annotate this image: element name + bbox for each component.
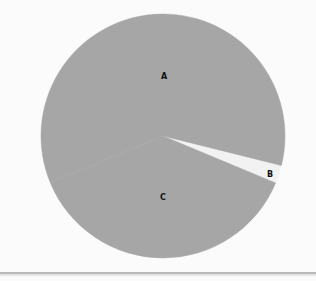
pie-chart-svg: A B C [0,0,316,281]
slice-label-c: C [160,193,166,202]
slice-label-a: A [161,72,168,81]
bottom-divider-shadow [0,274,316,276]
slice-label-b: B [267,170,273,179]
pie-chart: A B C [0,0,316,281]
pie-slices [41,14,285,258]
